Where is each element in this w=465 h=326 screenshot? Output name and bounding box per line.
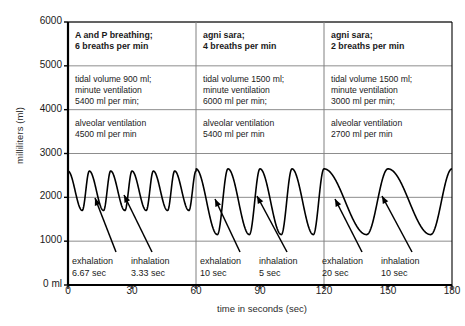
y-tick-label-4000: 4000	[8, 103, 62, 114]
x-axis-label: time in seconds (sec)	[70, 303, 454, 314]
x-tick-label-150: 150	[368, 285, 408, 296]
annotation-phase-label: inhalation	[259, 255, 298, 267]
annotation-duration-value: 6.67 sec	[72, 267, 113, 279]
y-tick-label-3000: 3000	[8, 147, 62, 158]
panel-alveolar-info-3: alveolar ventilation2700 ml per min	[331, 118, 402, 140]
x-tick-label-60: 60	[176, 285, 216, 296]
y-tick-label-1000: 1000	[8, 234, 62, 245]
text-line: 2700 ml per min	[331, 129, 402, 140]
x-tick-label-0: 0	[48, 285, 88, 296]
panel-alveolar-info-1: alveolar ventilation4500 ml per min	[75, 118, 146, 140]
panel-tidal-info-2: tidal volume 1500 ml;minute ventilation6…	[203, 74, 284, 108]
annotation-duration-value: 5 sec	[259, 267, 298, 279]
text-line: 5400 ml per min	[203, 129, 274, 140]
x-tick-label-30: 30	[112, 285, 152, 296]
x-tick-label-90: 90	[240, 285, 280, 296]
text-line: minute ventilation	[203, 85, 284, 96]
annotation-phase-label: exhalation	[72, 255, 113, 267]
annotation-exhalation-2: exhalation10 sec	[200, 255, 241, 279]
annotation-phase-label: inhalation	[131, 255, 170, 267]
text-line: 6 breaths per min	[75, 41, 153, 52]
y-tick-label-6000: 6000	[8, 15, 62, 26]
text-line: tidal volume 1500 ml;	[203, 74, 284, 85]
x-tick-label-180: 180	[432, 285, 465, 296]
text-line: minute ventilation	[331, 85, 412, 96]
annotation-inhalation-1: inhalation3.33 sec	[131, 255, 170, 279]
panel-alveolar-info-2: alveolar ventilation5400 ml per min	[203, 118, 274, 140]
panel-tidal-info-1: tidal volume 900 ml;minute ventilation54…	[75, 74, 151, 108]
y-tick-label-5000: 5000	[8, 59, 62, 70]
annotation-duration-value: 3.33 sec	[131, 267, 170, 279]
text-line: 4 breaths per min	[203, 41, 276, 52]
panel-header-1: A and P breathing;6 breaths per min	[75, 30, 153, 52]
text-line: alveolar ventilation	[331, 118, 402, 129]
text-line: tidal volume 900 ml;	[75, 74, 151, 85]
text-line: agni sara;	[331, 30, 404, 41]
panel-tidal-info-3: tidal volume 1500 ml;minute ventilation3…	[331, 74, 412, 108]
y-axis-label: milliliters (ml)	[14, 71, 25, 201]
text-line: alveolar ventilation	[75, 118, 146, 129]
text-line: minute ventilation	[75, 85, 151, 96]
annotation-exhalation-3: exhalation20 sec	[322, 255, 363, 279]
annotation-phase-label: exhalation	[200, 255, 241, 267]
text-line: tidal volume 1500 ml;	[331, 74, 412, 85]
annotation-exhalation-1: exhalation6.67 sec	[72, 255, 113, 279]
panel-header-2: agni sara;4 breaths per min	[203, 30, 276, 52]
panel-header-3: agni sara;2 breaths per min	[331, 30, 404, 52]
annotation-inhalation-2: inhalation5 sec	[259, 255, 298, 279]
text-line: 3000 ml per min;	[331, 96, 412, 107]
annotation-inhalation-3: inhalation10 sec	[381, 255, 420, 279]
text-line: 4500 ml per min	[75, 129, 146, 140]
annotation-duration-value: 10 sec	[200, 267, 241, 279]
text-line: 5400 ml per min;	[75, 96, 151, 107]
text-line: A and P breathing;	[75, 30, 153, 41]
axes	[64, 22, 452, 289]
text-line: alveolar ventilation	[203, 118, 274, 129]
annotation-phase-label: exhalation	[322, 255, 363, 267]
y-tick-label-2000: 2000	[8, 190, 62, 201]
text-line: agni sara;	[203, 30, 276, 41]
annotation-duration-value: 20 sec	[322, 267, 363, 279]
x-tick-label-120: 120	[304, 285, 344, 296]
respiration-volume-chart: milliliters (ml) time in seconds (sec) 0…	[0, 0, 465, 326]
text-line: 6000 ml per min;	[203, 96, 284, 107]
annotation-duration-value: 10 sec	[381, 267, 420, 279]
text-line: 2 breaths per min	[331, 41, 404, 52]
annotation-phase-label: inhalation	[381, 255, 420, 267]
